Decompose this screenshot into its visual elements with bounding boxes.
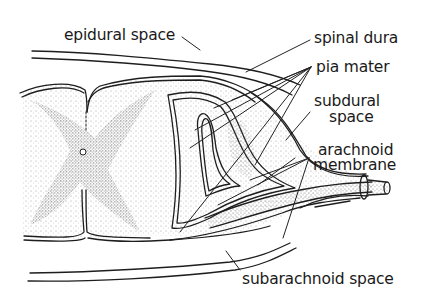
label-subdural-space-2: space <box>329 110 373 125</box>
label-pia-mater: pia mater <box>316 60 389 75</box>
label-epidural-space: epidural space <box>64 28 175 43</box>
label-arachnoid-membrane-2: membrane <box>313 158 396 173</box>
label-subarachnoid-space: subarachnoid space <box>242 272 394 287</box>
label-subdural-space-1: subdural <box>314 94 380 109</box>
spinal-cord-diagram: epidural space spinal dura pia mater sub… <box>0 0 422 302</box>
label-spinal-dura: spinal dura <box>314 31 398 46</box>
central-canal <box>80 149 86 155</box>
